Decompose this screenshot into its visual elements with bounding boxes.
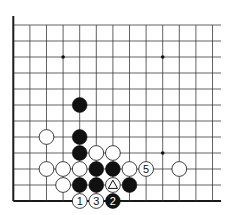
go-board: 5132 [0,0,235,215]
move-number: 3 [93,195,99,207]
star-point-icon [61,55,65,59]
move-number: 2 [110,195,116,207]
star-point-icon [161,151,165,155]
white-stone [56,162,71,177]
black-stone [72,98,87,113]
white-stone-3: 3 [89,194,104,209]
black-stone [122,178,137,193]
white-stone-5: 5 [139,162,154,177]
white-stone [56,178,71,193]
black-stone-2: 2 [106,194,121,209]
black-stone [89,178,104,193]
black-stone [89,162,104,177]
white-stone [89,146,104,161]
move-number: 5 [143,163,149,175]
white-stone [106,146,121,161]
black-stone [72,130,87,145]
white-stone [39,130,54,145]
black-stone [72,178,87,193]
star-point-icon [161,55,165,59]
white-stone [172,162,187,177]
move-number: 1 [77,195,83,207]
white-stone-1: 1 [72,194,87,209]
black-stone [72,146,87,161]
white-stone [72,162,87,177]
white-stone [106,178,121,193]
white-stone [122,162,137,177]
white-stone [39,162,54,177]
black-stone [106,162,121,177]
